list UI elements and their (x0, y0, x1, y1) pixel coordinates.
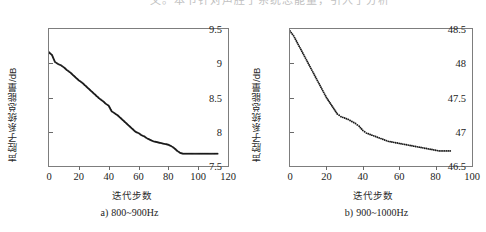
figure-caption-b: b)900~1000Hz (255, 207, 486, 218)
y-tick-label-b-48: 48 (456, 58, 467, 69)
cropped-body-text-line: 文。本节针对声腔子系统总能量，引入了分析 (150, 0, 480, 5)
x-tick-label-b-80: 80 (430, 171, 441, 182)
y-tick-label-a-8.5: 8.5 (209, 92, 222, 103)
series-canvas-a (49, 29, 228, 166)
x-tick-mark-a-100 (198, 166, 199, 170)
x-tick-label-b-100: 100 (464, 171, 480, 182)
x-tick-mark-a-80 (168, 166, 169, 170)
y-tick-mark-a-9 (49, 63, 53, 64)
x-tick-label-a-120: 120 (220, 171, 236, 182)
cropped-body-text: 文。本节针对声腔子系统总能量，引入了分析 (150, 0, 480, 9)
plot-area-a: 9.5 9 8.5 8 7.5 0 20 40 60 80 100 120 (48, 28, 229, 167)
y-tick-label-a-9: 9 (217, 58, 222, 69)
figure-caption-index-b: b) (345, 207, 353, 218)
y-tick-label-b-47.5: 47.5 (448, 92, 466, 103)
x-tick-label-b-40: 40 (358, 171, 369, 182)
figure-caption-text-a: 800~900Hz (111, 207, 158, 218)
x-tick-label-a-0: 0 (46, 171, 51, 182)
x-tick-label-a-20: 20 (74, 171, 85, 182)
y-tick-label-a-9.5: 9.5 (209, 24, 222, 35)
x-tick-label-b-60: 60 (394, 171, 405, 182)
y-tick-mark-a-8 (49, 132, 53, 133)
x-tick-label-b-20: 20 (321, 171, 332, 182)
x-tick-label-a-40: 40 (103, 171, 114, 182)
figure-caption-index-a: a) (101, 207, 109, 218)
x-tick-mark-b-80 (436, 166, 437, 170)
x-tick-mark-a-20 (79, 166, 80, 170)
x-axis-label-b: 迭代步数 (251, 188, 486, 202)
x-tick-label-a-80: 80 (163, 171, 174, 182)
data-series-b (290, 30, 451, 152)
plot-area-b: 48.5 48 47.5 47 46.5 0 20 40 60 80 100 (289, 28, 473, 167)
x-axis-label-a: 迭代步数 (10, 188, 253, 202)
x-tick-mark-b-40 (363, 166, 364, 170)
y-axis-label-a: 声腔子系统总能量/dB (6, 44, 20, 162)
y-tick-label-a-8: 8 (217, 126, 222, 137)
x-tick-mark-a-40 (109, 166, 110, 170)
y-tick-label-b-47: 47 (456, 126, 467, 137)
figure-caption-text-b: 900~1000Hz (356, 207, 408, 218)
x-tick-label-a-60: 60 (133, 171, 144, 182)
y-tick-mark-b-48 (290, 63, 294, 64)
y-tick-mark-b-47 (290, 132, 294, 133)
x-tick-mark-a-60 (139, 166, 140, 170)
figure-caption-a: a)800~900Hz (8, 207, 251, 218)
y-tick-mark-a-8.5 (49, 98, 53, 99)
y-tick-label-b-48.5: 48.5 (448, 24, 466, 35)
y-tick-mark-b-47.5 (290, 98, 294, 99)
data-series-a (49, 51, 218, 154)
x-tick-mark-b-20 (326, 166, 327, 170)
series-canvas-b (290, 29, 472, 166)
x-tick-mark-b-60 (399, 166, 400, 170)
y-tick-label-b-46.5: 46.5 (448, 161, 466, 172)
x-tick-label-b-0: 0 (287, 171, 292, 182)
y-tick-label-a-7.5: 7.5 (209, 161, 222, 172)
y-axis-label-b: 声腔子系统总能量/dB (250, 44, 264, 162)
x-tick-label-a-100: 100 (190, 171, 206, 182)
